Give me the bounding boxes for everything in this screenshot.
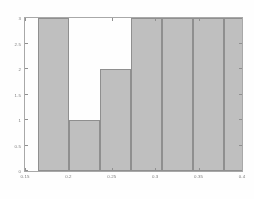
y-axis-tick: [239, 94, 242, 95]
plot-area: [25, 18, 242, 171]
x-axis-tick-label: 0.35: [194, 174, 203, 179]
x-axis-tick-label: 0.2: [65, 174, 71, 179]
y-axis-tick-label: 0.5: [21, 143, 27, 148]
histogram-bar: [224, 18, 242, 171]
x-axis-tick: [112, 18, 113, 21]
y-axis-tick: [25, 170, 28, 171]
x-axis-tick: [25, 18, 26, 21]
x-axis-tick: [112, 168, 113, 171]
x-axis-tick: [68, 18, 69, 21]
y-axis-tick: [239, 119, 242, 120]
y-axis-tick-label: 2.5: [21, 41, 27, 46]
x-axis-tick: [199, 168, 200, 171]
y-axis-tick: [25, 68, 28, 69]
histogram-bar: [38, 18, 69, 171]
x-axis-tick: [155, 168, 156, 171]
plot-axes-frame: [24, 17, 243, 172]
y-axis-tick-label: 0: [21, 169, 24, 174]
y-axis-tick-label: 1.5: [21, 92, 27, 97]
y-axis-tick-label: 1: [21, 118, 24, 123]
y-axis-tick: [239, 145, 242, 146]
histogram-bar: [100, 69, 131, 171]
y-axis-tick: [239, 170, 242, 171]
histogram-bar: [193, 18, 224, 171]
x-axis-tick-label: 0.3: [152, 174, 158, 179]
y-axis-tick: [239, 68, 242, 69]
y-axis-tick: [239, 43, 242, 44]
x-axis-tick-label: 0.25: [107, 174, 116, 179]
figure-canvas: 0.150.20.250.30.350.4 00.511.522.53: [0, 0, 254, 199]
histogram-bar: [69, 120, 100, 171]
x-axis-tick: [199, 18, 200, 21]
histogram-bar: [131, 18, 162, 171]
y-axis-tick: [25, 119, 28, 120]
x-axis-tick-label: 0.15: [21, 174, 30, 179]
x-axis-tick-label: 0.4: [239, 174, 245, 179]
x-axis-tick: [155, 18, 156, 21]
y-axis-tick-label: 2: [21, 67, 24, 72]
histogram-bar: [162, 18, 193, 171]
y-axis-tick-label: 3: [21, 16, 24, 21]
x-axis-tick: [68, 168, 69, 171]
